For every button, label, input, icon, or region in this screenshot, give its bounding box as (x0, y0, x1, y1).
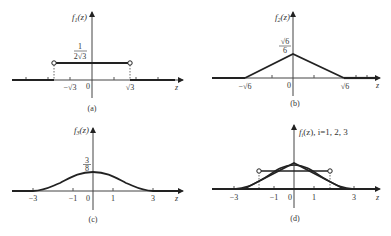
tick-label-m3: −3 (230, 193, 239, 202)
panel-caption: (c) (89, 215, 98, 224)
tick-label-neg: −√3 (64, 83, 77, 92)
triangular-density-line (245, 54, 344, 78)
x-axis-label: z (174, 83, 179, 92)
panel-caption: (d) (290, 214, 300, 223)
open-circle-right (328, 169, 332, 173)
peak-label-denominator: 2√3 (74, 52, 86, 61)
x-axis-label: z (375, 81, 380, 90)
tick-label-p1: 1 (312, 193, 316, 202)
open-circle-right (128, 61, 132, 65)
peak-label-denominator: 6 (283, 46, 287, 55)
tick-label-zero: 0 (287, 81, 291, 90)
y-axis-label: f2(z) (275, 12, 290, 23)
panel-b: f2(z) √6 6 −√6 0 √6 z (b) (212, 12, 380, 108)
tick-label-p3: 3 (151, 194, 155, 203)
panel-caption: (a) (88, 104, 97, 113)
tick-label-zero: 0 (86, 82, 90, 91)
tick-label-zero: 0 (288, 193, 292, 202)
peak-label-numerator: √6 (281, 37, 289, 46)
open-circle-left (52, 61, 56, 65)
panel-caption: (b) (290, 99, 300, 108)
peak-label-numerator: 1 (78, 42, 82, 51)
panel-c: f3(z) 3 8 −3 −1 0 1 3 z (c) (12, 125, 183, 224)
peak-label-denominator: 8 (85, 164, 89, 173)
figure-canvas: f1(z) 1 2√3 −√3 0 √3 z (a) f2(z) √6 6 −√… (0, 0, 391, 236)
tick-label-pos: √6 (341, 82, 349, 91)
open-circle-left (257, 169, 261, 173)
tick-label-neg: −√6 (239, 82, 252, 91)
tick-label-pos: √3 (126, 83, 134, 92)
tick-label-p1: 1 (111, 194, 115, 203)
tick-label-m1: −1 (69, 194, 78, 203)
tick-label-zero: 0 (86, 194, 90, 203)
tick-label-m3: −3 (29, 194, 38, 203)
panel-a: f1(z) 1 2√3 −√3 0 √3 z (a) (12, 12, 183, 113)
tick-label-m1: −1 (270, 193, 279, 202)
tick-label-p3: 3 (352, 193, 356, 202)
x-axis-label: z (174, 194, 179, 203)
y-axis-label: f1(z) (72, 12, 87, 23)
y-axis-label: f3(z) (74, 125, 89, 136)
panel-d: fi(z), i=1, 2, 3 −3 −1 0 1 3 z (d) (212, 125, 380, 223)
y-axis-label: fi(z), i=1, 2, 3 (299, 127, 348, 138)
x-axis-label: z (375, 193, 380, 202)
